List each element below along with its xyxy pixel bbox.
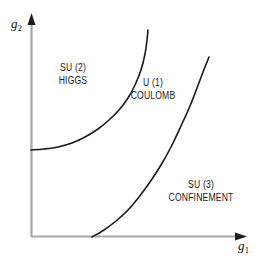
region-label-line2: COULOMB bbox=[125, 89, 182, 102]
x-axis-label-subscript: 1 bbox=[245, 245, 249, 255]
region-label-su3-confinement: SU (3) CONFINEMENT bbox=[164, 178, 238, 204]
x-axis-label-symbol: g bbox=[238, 238, 245, 253]
phase-diagram-figure: SU (2) HIGGS U (1) COULOMB SU (3) CONFIN… bbox=[0, 0, 263, 262]
y-axis-label-symbol: g bbox=[11, 16, 18, 31]
region-label-line2: CONFINEMENT bbox=[164, 191, 238, 204]
x-axis-label: g1 bbox=[238, 238, 249, 254]
plot-canvas bbox=[0, 0, 263, 262]
region-label-u1-coulomb: U (1) COULOMB bbox=[125, 76, 182, 102]
y-axis-label-subscript: 2 bbox=[18, 23, 22, 33]
region-label-line1: U (1) bbox=[125, 76, 182, 89]
y-axis-label: g2 bbox=[11, 16, 22, 32]
region-label-line1: SU (2) bbox=[45, 61, 102, 74]
y-axis-arrowhead bbox=[28, 13, 36, 25]
region-label-line1: SU (3) bbox=[164, 178, 238, 191]
region-label-su2-higgs: SU (2) HIGGS bbox=[45, 61, 102, 87]
region-label-line2: HIGGS bbox=[45, 74, 102, 87]
